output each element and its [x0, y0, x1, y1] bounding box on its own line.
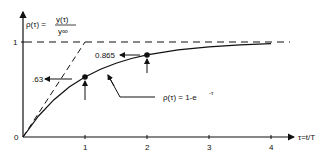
- point-865: [144, 52, 150, 58]
- x-tick-label-4: 4: [269, 143, 274, 152]
- y-tick-label-1: 1: [13, 38, 18, 47]
- origin-label: 0: [14, 133, 19, 142]
- ylabel-num: y(τ): [56, 15, 69, 24]
- curve-equation: ρ(τ) = 1-e: [163, 93, 197, 102]
- ylabel-lhs: ρ(τ) =: [26, 20, 46, 29]
- tangent-line: [23, 42, 85, 137]
- annotation-63: .63: [32, 75, 44, 84]
- ylabel-den: y∞: [58, 27, 68, 36]
- curve-leader-arrow: [108, 75, 114, 86]
- x-tick-label-3: 3: [207, 143, 212, 152]
- x-axis-label: τ=t/T: [298, 133, 315, 142]
- curve-equation-exponent: -τ: [209, 90, 214, 96]
- point-63: [82, 74, 88, 80]
- annotation-865: 0.865: [95, 51, 116, 60]
- step-response-chart: ρ(τ) = y(τ) y∞ 1 0 1 2 3 4 τ=t/T .63 0.8…: [0, 0, 334, 158]
- curve-leader: [108, 75, 155, 97]
- x-tick-label-2: 2: [145, 143, 150, 152]
- x-tick-label-1: 1: [83, 143, 88, 152]
